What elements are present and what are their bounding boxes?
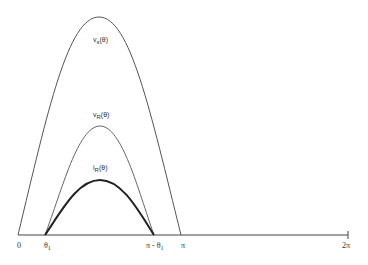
tick-pi: π xyxy=(181,242,185,250)
tick-theta1: θ1 xyxy=(44,242,51,251)
iR-label: iR(θ) xyxy=(93,164,107,173)
waveform-diagram xyxy=(0,0,368,265)
tick-zero: 0 xyxy=(17,242,21,250)
tick-pi-minus-theta1: π - θ1 xyxy=(146,242,164,251)
vR-label: vR(θ) xyxy=(93,111,109,120)
vs-label: vs(θ) xyxy=(93,36,108,45)
tick-two-pi: 2π xyxy=(342,242,350,250)
